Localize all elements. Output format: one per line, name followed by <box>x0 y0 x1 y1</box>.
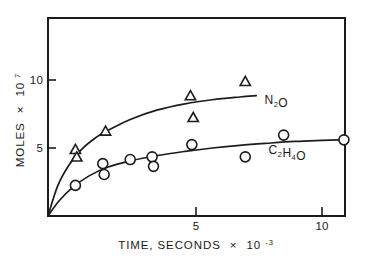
figure-container: 5 10 5 10 MOLES × 10 7 TIME, SECONDS × 1… <box>0 0 372 262</box>
y-axis-ticks <box>48 80 56 148</box>
x-axis-title-base: 10 <box>247 239 262 251</box>
y-tick-label-10: 10 <box>30 74 43 86</box>
data-point-n2o-3 <box>185 91 195 100</box>
data-point-c2h4o-0 <box>70 180 80 190</box>
x-axis-title: TIME, SECONDS × 10 -3 <box>118 238 273 251</box>
x-axis-ticks <box>196 207 322 216</box>
x-axis-title-exponent: -3 <box>265 238 273 247</box>
data-point-c2h4o-5 <box>148 161 158 171</box>
y-tick-label-5: 5 <box>36 142 43 154</box>
svg-text:MOLES × 10: MOLES × 10 7 <box>13 73 26 167</box>
data-point-c2h4o-7 <box>240 152 250 162</box>
data-point-c2h4o-9 <box>339 135 349 145</box>
data-point-c2h4o-2 <box>99 170 109 180</box>
data-point-c2h4o-8 <box>279 130 289 140</box>
kinetics-scatter-chart: 5 10 5 10 MOLES × 10 7 TIME, SECONDS × 1… <box>0 0 372 262</box>
series-label-c2h4o: C2H4O <box>269 143 307 163</box>
data-point-c2h4o-1 <box>98 159 108 169</box>
data-point-n2o-4 <box>188 112 198 121</box>
data-point-c2h4o-4 <box>147 152 157 162</box>
series-markers-layer <box>70 76 349 190</box>
data-point-n2o-5 <box>240 76 250 85</box>
y-axis-title-times: × <box>14 106 26 114</box>
data-point-n2o-0 <box>70 144 80 153</box>
data-point-c2h4o-3 <box>125 155 135 165</box>
y-axis-title-base: 10 <box>14 82 26 97</box>
x-tick-label-10: 10 <box>315 220 328 232</box>
series-label-n2o: N2O <box>264 93 288 110</box>
x-tick-label-5: 5 <box>193 220 200 232</box>
y-axis-title-main: MOLES <box>14 122 26 167</box>
y-axis-title-exponent: 7 <box>13 73 22 78</box>
x-axis-title-times: × <box>230 239 238 251</box>
x-axis-title-main: TIME, SECONDS <box>118 239 220 251</box>
y-axis-title: MOLES × 10 7 <box>13 73 26 167</box>
data-point-c2h4o-6 <box>187 140 197 150</box>
series-labels-layer: N2OC2H4O <box>264 93 306 163</box>
